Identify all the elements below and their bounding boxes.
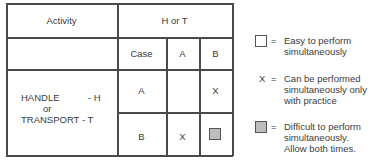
legend-gray-square-icon (255, 121, 267, 133)
row-divider (117, 112, 233, 114)
table-right-border (232, 3, 234, 156)
activity-header: Activity (6, 3, 117, 37)
row-label-or: or (43, 103, 51, 114)
legend-white-square-icon (255, 35, 267, 47)
legend-x-symbol: X (259, 73, 265, 84)
legend-text-practice: Can be performed simultaneously only wit… (284, 73, 367, 106)
h-or-t-header: H or T (117, 3, 232, 37)
row-label-handle: HANDLE (21, 92, 60, 103)
row-b-case: B (117, 122, 166, 150)
row-b-col-b-gray-square-icon (209, 128, 221, 140)
case-header: Case (117, 37, 166, 69)
legend-eq-3: = (271, 121, 277, 132)
row-a-case: A (117, 76, 166, 104)
legend-text-difficult: Difficult to perform simultaneously. All… (284, 121, 361, 154)
col-b-header: B (199, 37, 232, 69)
row-label-h: - H (88, 92, 101, 103)
legend-eq-2: = (271, 73, 277, 84)
row-a-col-b: X (199, 76, 232, 104)
row-label-transport: TRANSPORT - T (21, 114, 93, 125)
row-a-col-a (166, 76, 199, 104)
legend-eq-1: = (271, 35, 277, 46)
col-a-header: A (166, 37, 199, 69)
row-b-col-a: X (166, 122, 199, 150)
legend-text-easy: Easy to perform simultaneously (284, 35, 351, 57)
